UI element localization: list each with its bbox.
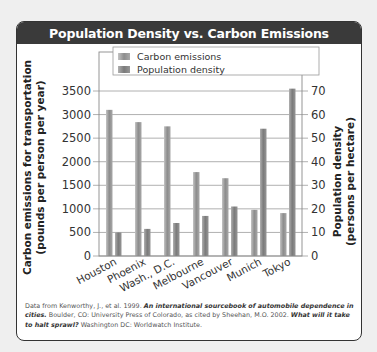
y2-tick-label: 40	[311, 155, 326, 169]
caption-text: Boulder, CO: University Press of Colorad…	[47, 311, 291, 319]
bar-population-density	[202, 216, 209, 256]
chart-card: Population Density vs. Carbon Emissions …	[16, 21, 362, 341]
bar-population-density	[144, 229, 151, 256]
y-tick-label: 2500	[62, 131, 91, 145]
right-axis-ticks: 010203040506070	[311, 84, 326, 263]
y-tick-label: 3000	[62, 108, 91, 122]
legend-label: Population density	[137, 64, 225, 75]
y-tick-label: 500	[69, 225, 91, 239]
bar-population-density	[231, 207, 238, 257]
y2-tick-label: 10	[311, 225, 326, 239]
y-axis-title: Carbon emissions for transportation	[21, 60, 33, 275]
gridlines	[93, 91, 308, 256]
caption-text: Data from Kenworthy, J., et al. 1999.	[25, 302, 144, 310]
y-tick-label: 0	[84, 249, 91, 263]
bars	[106, 89, 296, 256]
bar-carbon-emissions	[251, 210, 258, 256]
bar-population-density	[289, 89, 296, 256]
caption-text: Washington DC: Worldwatch Institute.	[79, 321, 202, 329]
bar-carbon-emissions	[106, 110, 113, 256]
plot-border	[99, 52, 302, 256]
y2-tick-label: 0	[311, 249, 318, 263]
chart-plot: 0500100015002000250030003500 01020304050…	[17, 44, 362, 302]
x-tick-label: Tokyo	[260, 255, 292, 280]
plot-frame	[99, 52, 302, 256]
y2-tick-label: 60	[311, 108, 326, 122]
bar-carbon-emissions	[193, 172, 200, 256]
bar-carbon-emissions	[164, 126, 171, 256]
chart-title: Population Density vs. Carbon Emissions	[17, 22, 361, 44]
y-axis-subtitle: (pounds per person per year)	[34, 80, 46, 254]
legend-swatch	[118, 53, 130, 60]
bar-population-density	[115, 232, 122, 256]
bar-carbon-emissions	[222, 178, 229, 256]
y-tick-label: 1000	[62, 202, 91, 216]
y2-tick-label: 70	[311, 84, 326, 98]
y-tick-label: 2000	[62, 155, 91, 169]
source-caption: Data from Kenworthy, J., et al. 1999. An…	[25, 302, 355, 330]
legend-swatch	[118, 66, 130, 73]
y2-axis-subtitle: (persons per hectare)	[344, 117, 356, 246]
y2-tick-label: 50	[311, 131, 326, 145]
x-axis-labels: HoustonPhoenixWash., D.C.MelbourneVancou…	[74, 255, 292, 294]
bar-population-density	[173, 223, 180, 256]
left-axis-ticks: 0500100015002000250030003500	[62, 84, 91, 263]
y2-tick-label: 30	[311, 178, 326, 192]
bar-carbon-emissions	[135, 122, 142, 256]
bar-carbon-emissions	[280, 213, 287, 256]
legend: Carbon emissionsPopulation density	[113, 47, 319, 75]
bar-population-density	[260, 129, 267, 256]
legend-label: Carbon emissions	[137, 51, 221, 62]
y2-axis-title: Population density	[331, 126, 343, 238]
y-tick-label: 3500	[62, 84, 91, 98]
y2-tick-label: 20	[311, 202, 326, 216]
y-tick-label: 1500	[62, 178, 91, 192]
